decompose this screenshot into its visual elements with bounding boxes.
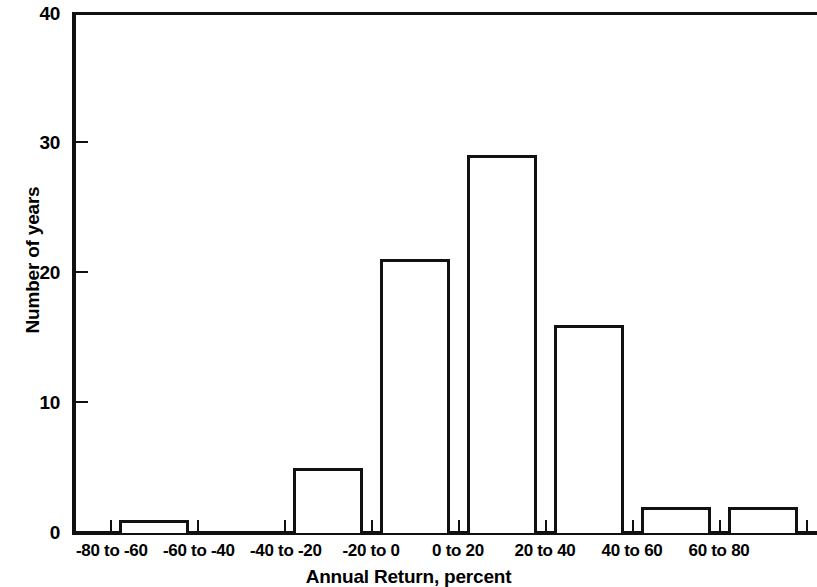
y-tick-label-10: 10 (4, 393, 60, 412)
x-tick-label-2: -40 to -20 (250, 541, 318, 561)
bar-6 (641, 507, 711, 533)
x-axis-title: Annual Return, percent (0, 566, 817, 587)
x-tick-mark-3 (371, 520, 373, 531)
y-axis-line (72, 12, 76, 535)
x-tick-label-4: 0 to 20 (424, 541, 492, 561)
plot-top-border (72, 12, 817, 15)
x-tick-label-1: -60 to -40 (163, 541, 231, 561)
bar-4 (467, 155, 537, 533)
y-tick-mark-30 (76, 141, 88, 143)
x-tick-label-0: -80 to -60 (76, 541, 144, 561)
y-tick-label-20: 20 (4, 263, 60, 282)
x-tick-mark-5 (545, 520, 547, 531)
y-tick-label-40: 40 (4, 4, 60, 23)
x-tick-mark-6 (632, 520, 634, 531)
y-tick-mark-10 (76, 401, 88, 403)
x-tick-mark-7 (719, 520, 721, 531)
x-tick-label-6: 40 to 60 (598, 541, 666, 561)
y-tick-label-30: 30 (4, 133, 60, 152)
bar-0 (119, 520, 189, 533)
bar-2 (293, 468, 363, 533)
histogram-chart: Number of years 40 30 20 10 0 -80 to -60… (0, 0, 817, 587)
x-tick-mark-8 (806, 520, 808, 531)
x-tick-mark-0 (110, 520, 112, 531)
bar-5 (554, 325, 624, 533)
x-tick-mark-1 (197, 520, 199, 531)
y-tick-label-0: 0 (4, 523, 60, 542)
x-tick-mark-2 (284, 520, 286, 531)
bar-7 (728, 507, 798, 533)
bar-3 (380, 259, 450, 533)
x-tick-mark-4 (458, 520, 460, 531)
x-tick-label-3: -20 to 0 (337, 541, 405, 561)
x-tick-label-5: 20 to 40 (511, 541, 579, 561)
y-tick-mark-20 (76, 271, 88, 273)
x-tick-label-7: 60 to 80 (685, 541, 753, 561)
